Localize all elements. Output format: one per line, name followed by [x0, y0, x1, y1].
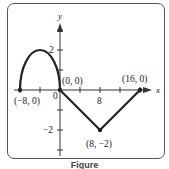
function-graph: y x 0 8 2 −2 (−8, 0) (0, 0) (16, 0) (8, …	[0, 0, 169, 169]
point-0-0	[58, 88, 62, 92]
point-label-8-neg2: (8, −2)	[86, 139, 112, 150]
y-axis-arrow-icon	[57, 23, 63, 32]
point-neg8-0	[18, 88, 22, 92]
figure-caption: Figure	[0, 160, 169, 169]
point-label-neg8-0: (−8, 0)	[14, 96, 40, 107]
tick-label-2: 2	[49, 45, 54, 55]
point-16-0	[138, 88, 142, 92]
y-axis-label: y	[57, 11, 62, 21]
x-axis	[14, 87, 152, 93]
point-8-neg2	[98, 128, 102, 132]
tick-label-8: 8	[97, 96, 102, 106]
tick-label-origin: 0	[53, 91, 58, 101]
arc-curve	[20, 50, 60, 90]
point-label-0-0: (0, 0)	[62, 76, 83, 87]
x-axis-label: x	[155, 85, 160, 95]
tick-label-neg2: −2	[43, 125, 53, 135]
x-axis-arrow-icon	[143, 87, 152, 93]
point-label-16-0: (16, 0)	[122, 74, 147, 85]
